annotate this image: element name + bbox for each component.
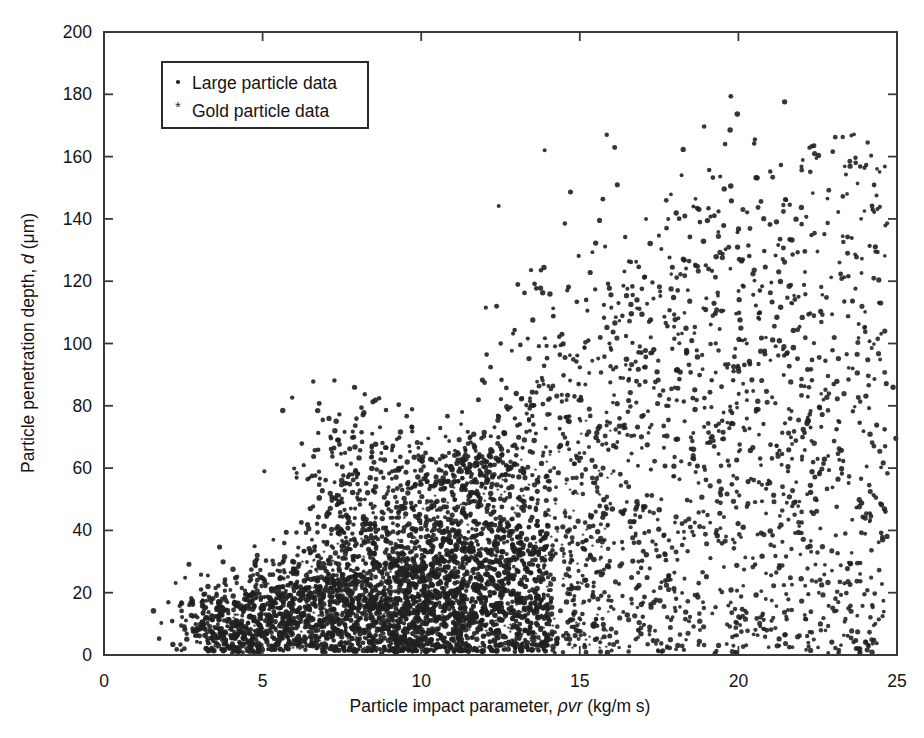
data-point (534, 549, 539, 554)
legend-entry-large-particle[interactable]: Large particle data (176, 73, 337, 93)
data-point (609, 627, 614, 632)
data-point (456, 587, 461, 592)
data-point (391, 521, 395, 525)
data-point (847, 481, 851, 485)
data-point-gold: * (459, 501, 463, 511)
data-point (805, 367, 810, 372)
data-point (841, 459, 845, 463)
data-point (731, 538, 735, 542)
data-point (786, 608, 790, 612)
data-point (742, 567, 746, 571)
data-point (570, 625, 574, 629)
data-point (864, 163, 868, 167)
data-point (321, 648, 326, 653)
data-point (557, 415, 562, 420)
data-point (508, 405, 512, 409)
data-point (333, 480, 337, 484)
data-point (363, 497, 367, 501)
data-point (460, 548, 465, 553)
data-point (482, 380, 487, 385)
data-point-gold: * (321, 602, 325, 612)
data-point (781, 245, 786, 250)
data-point-gold: * (379, 577, 383, 587)
data-point (859, 530, 864, 535)
data-point (430, 538, 435, 543)
data-point-gold: * (584, 547, 588, 557)
data-point (606, 448, 611, 453)
data-point-gold: * (598, 644, 602, 654)
data-point (468, 434, 473, 439)
data-point-gold: * (418, 579, 422, 589)
data-point (716, 539, 720, 543)
data-point-gold: * (336, 540, 340, 550)
data-point (206, 610, 210, 614)
data-point (604, 442, 608, 446)
data-point (672, 336, 677, 341)
data-point (607, 565, 611, 569)
data-point (830, 569, 834, 573)
data-point (769, 359, 773, 363)
data-point (602, 316, 606, 320)
data-point (820, 592, 825, 597)
data-point (337, 442, 342, 447)
data-point-gold: * (411, 571, 415, 581)
data-point (693, 593, 698, 598)
data-point (670, 265, 675, 270)
data-point-gold: * (335, 613, 339, 623)
data-point (390, 477, 394, 481)
data-point (761, 216, 766, 221)
data-point (487, 453, 492, 458)
data-point (251, 649, 256, 654)
data-point (405, 490, 410, 495)
legend-entry-gold-particle[interactable]: * Gold particle data (175, 98, 329, 121)
data-point (767, 478, 771, 482)
data-point (340, 464, 345, 469)
data-point (497, 608, 501, 612)
data-point (714, 341, 718, 345)
data-point (493, 498, 497, 502)
data-point-gold: * (442, 573, 446, 583)
data-point (628, 367, 632, 371)
data-point (409, 526, 414, 531)
data-point (469, 600, 473, 604)
data-point (691, 431, 695, 435)
data-point-gold: * (515, 601, 519, 611)
data-point (645, 642, 650, 647)
data-point (778, 237, 783, 242)
data-point (685, 498, 690, 503)
data-point-gold: * (403, 566, 407, 576)
data-point (488, 365, 493, 370)
data-point (610, 648, 614, 652)
data-point (745, 505, 749, 509)
data-point (706, 267, 711, 272)
data-point (839, 593, 843, 597)
data-point (695, 348, 699, 352)
data-point (645, 442, 650, 447)
data-point (595, 636, 600, 641)
data-point (640, 286, 645, 291)
data-point (514, 631, 519, 636)
data-point (596, 426, 601, 431)
data-point (582, 622, 586, 626)
data-point (351, 430, 355, 434)
data-point (795, 356, 800, 361)
data-point (776, 269, 781, 274)
data-point (305, 560, 309, 564)
data-point (500, 452, 505, 457)
data-point (466, 498, 470, 502)
data-point (806, 592, 810, 596)
data-point (313, 448, 318, 453)
data-point (851, 409, 855, 413)
data-point (664, 558, 669, 563)
data-point (626, 617, 631, 622)
data-point (482, 522, 486, 526)
data-point (225, 644, 230, 649)
data-point (711, 301, 716, 306)
data-point-gold: * (549, 554, 553, 564)
data-point (557, 352, 562, 357)
data-point (866, 383, 871, 388)
data-point-gold: * (310, 618, 314, 628)
data-point (745, 416, 749, 420)
data-point-gold: * (363, 644, 367, 654)
data-point (303, 587, 308, 592)
